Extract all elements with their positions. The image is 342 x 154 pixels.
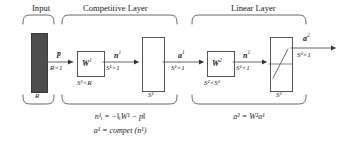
section-header-competitive-layer: Competitive Layer [83,4,148,13]
weight-label-w1: W1 [82,58,92,68]
transfer-size-compet: S¹ [148,92,154,99]
section-header-linear-layer: Linear Layer [231,4,276,13]
weight-label-w2-sup: 2 [219,57,222,63]
arrowhead-p [68,59,73,64]
equation-group-competitive: n¹ᵢ = −‖ᵢW¹ − p‖ a¹ = compet (n¹) [62,112,178,135]
arrowhead-a2 [331,45,336,50]
equation-linear-1: a² = W²a¹ [192,112,306,121]
brace-top-linear [192,15,306,24]
signal-label-a1: a1 [178,50,185,60]
weight-dims-w1: S¹×R [77,80,92,87]
signal-dims-a1: S¹×1 [171,65,185,72]
transfer-block-compet [142,37,165,92]
weight-label-w2: W2 [212,58,222,68]
signal-label-n1-sup: 1 [118,49,121,55]
weight-label-w1-sup: 1 [89,57,92,63]
signal-label-n2-sup: 1 [247,49,250,55]
arrowhead-n2 [262,59,267,64]
brace-bottom-linear [192,95,306,104]
signal-label-a2-sup: 2 [307,32,310,38]
arrowheads [68,45,336,64]
signal-label-p: p [57,50,61,58]
equation-competitive-2: a¹ = compet (n¹) [62,126,178,135]
signal-dims-p: R×1 [50,65,63,72]
section-header-input: Input [32,4,50,13]
diagram-canvas: Input Competitive Layer Linear Layer [0,0,342,154]
signal-label-a1-sup: 1 [182,49,185,55]
brace-top-input [23,15,54,24]
signal-dims-n2: S²×1 [236,65,250,72]
signal-dims-n1: S¹×1 [106,65,120,72]
signal-label-n2: n1 [243,50,250,60]
weight-dims-w2: S²×S¹ [204,80,220,87]
signal-label-a2: a2 [303,33,310,43]
equation-group-linear: a² = W²a¹ [192,112,306,121]
brace-top-competitive [62,15,177,24]
input-size-label: R [35,93,39,100]
input-vector-block [31,33,48,93]
equation-competitive-1: n¹ᵢ = −‖ᵢW¹ − p‖ [62,112,178,121]
brace-bottom-competitive [62,95,177,104]
transfer-block-purelin [270,37,293,92]
arrowhead-n1 [134,59,139,64]
transfer-size-purelin: S² [276,92,282,99]
signal-label-n1: n1 [114,50,121,60]
arrowhead-a1 [199,59,204,64]
signal-dims-a2: S²×1 [297,52,311,59]
